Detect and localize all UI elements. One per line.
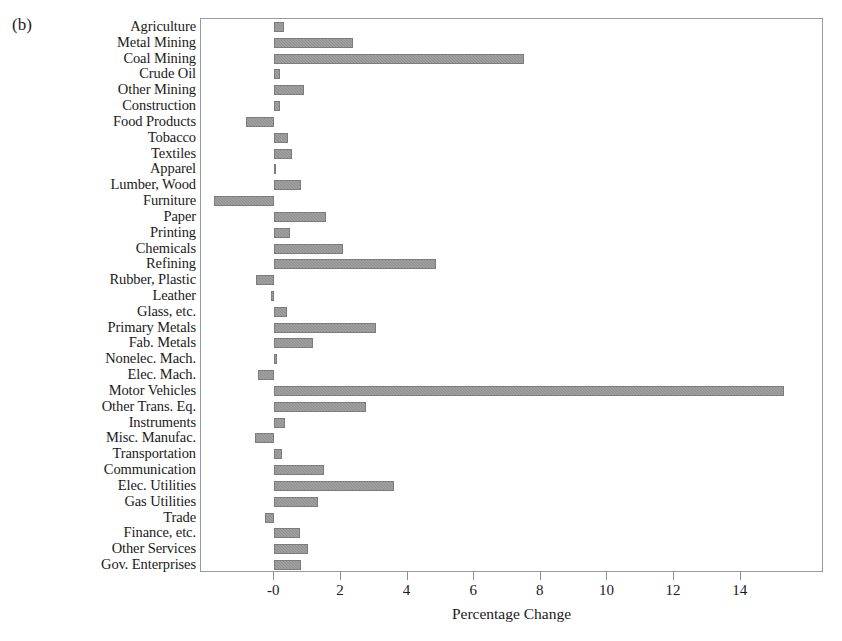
bar [274,85,303,95]
category-label: Other Services [0,541,196,555]
bar [258,370,275,380]
bar [274,354,276,364]
category-label: Paper [0,209,196,223]
x-tick-mark [473,572,474,580]
category-label: Chemicals [0,241,196,255]
category-label: Transportation [0,446,196,460]
category-label: Apparel [0,161,196,175]
bar [274,307,286,317]
category-label: Textiles [0,146,196,160]
bar [274,418,285,428]
category-label: Finance, etc. [0,525,196,539]
category-label: Fab. Metals [0,335,196,349]
x-tick-label: 6 [469,581,477,599]
bar [274,449,281,459]
bar [274,228,290,238]
category-label: Furniture [0,193,196,207]
x-tick-mark [740,572,741,580]
category-label: Glass, etc. [0,304,196,318]
category-label: Motor Vehicles [0,383,196,397]
plot-area [200,18,823,572]
category-label: Other Mining [0,82,196,96]
x-tick-mark [407,572,408,580]
category-label: Gov. Enterprises [0,557,196,571]
bar [274,259,436,269]
bar [274,481,394,491]
bar [246,117,274,127]
category-label: Printing [0,225,196,239]
bar [255,433,274,443]
category-label: Tobacco [0,130,196,144]
bar [274,323,376,333]
bars-layer [201,19,822,571]
category-label: Construction [0,98,196,112]
bar [271,291,274,301]
bar [274,528,300,538]
category-label: Primary Metals [0,320,196,334]
bar [274,560,301,570]
bar [274,244,342,254]
x-axis: -02468101214 [200,572,823,602]
category-label: Leather [0,288,196,302]
x-axis-title: Percentage Change [200,604,823,624]
x-tick-label: -0 [267,581,280,599]
x-tick-label: 14 [732,581,747,599]
bar [274,101,279,111]
figure-panel-b: (b) AgricultureMetal MiningCoal MiningCr… [0,0,842,641]
bar [214,196,274,206]
category-label: Elec. Utilities [0,478,196,492]
category-label: Coal Mining [0,51,196,65]
category-label: Food Products [0,114,196,128]
category-axis: AgricultureMetal MiningCoal MiningCrude … [0,18,196,572]
x-tick-mark [606,572,607,580]
x-tick-label: 4 [403,581,411,599]
bar [274,54,524,64]
bar [274,22,284,32]
x-tick-mark [540,572,541,580]
x-tick-label: 10 [599,581,614,599]
bar [274,402,366,412]
bar [274,133,287,143]
category-label: Instruments [0,415,196,429]
bar [274,544,307,554]
x-tick-mark [673,572,674,580]
category-label: Lumber, Wood [0,177,196,191]
category-label: Trade [0,510,196,524]
bar [274,38,352,48]
category-label: Refining [0,256,196,270]
bar [274,465,324,475]
bar [274,338,312,348]
bar [256,275,274,285]
category-label: Agriculture [0,19,196,33]
x-tick-label: 2 [336,581,344,599]
category-label: Nonelec. Mach. [0,351,196,365]
bar [274,212,326,222]
bar [274,386,784,396]
bar [274,497,318,507]
category-label: Misc. Manufac. [0,430,196,444]
bar [274,69,280,79]
category-label: Metal Mining [0,35,196,49]
bar [274,164,276,174]
bar [265,513,274,523]
x-tick-mark [273,572,274,580]
x-tick-label: 12 [666,581,681,599]
category-label: Other Trans. Eq. [0,399,196,413]
category-label: Elec. Mach. [0,367,196,381]
x-tick-mark [340,572,341,580]
bar [274,180,301,190]
category-label: Communication [0,462,196,476]
bar [274,149,292,159]
x-tick-label: 8 [536,581,544,599]
category-label: Gas Utilities [0,494,196,508]
category-label: Crude Oil [0,66,196,80]
category-label: Rubber, Plastic [0,272,196,286]
